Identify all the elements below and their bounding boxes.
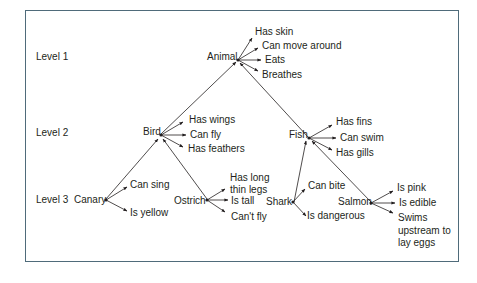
property-eats: Eats xyxy=(265,54,285,66)
node-fish: Fish xyxy=(289,129,308,141)
property-is-yellow: Is yellow xyxy=(130,207,168,219)
node-shark: Shark xyxy=(266,196,292,208)
level-3-label: Level 3 xyxy=(36,194,68,206)
property-has-wings: Has wings xyxy=(189,114,235,126)
property-is-pink: Is pink xyxy=(397,182,426,194)
property-is-tall: Is tall xyxy=(231,195,254,207)
property-swims-upstream: Swims upstream to lay eggs xyxy=(398,212,456,250)
property-has-long-thin-legs: Has long thin legs xyxy=(230,172,276,196)
property-is-dangerous: Is dangerous xyxy=(307,210,365,222)
property-has-gills: Has gills xyxy=(336,147,374,159)
level-1-label: Level 1 xyxy=(36,51,68,63)
property-cant-fly: Can't fly xyxy=(231,211,267,223)
node-bird: Bird xyxy=(143,126,161,138)
property-can-sing: Can sing xyxy=(130,179,169,191)
node-ostrich: Ostrich xyxy=(174,195,206,207)
property-can-swim: Can swim xyxy=(340,132,384,144)
property-has-skin: Has skin xyxy=(255,26,293,38)
property-has-feathers: Has feathers xyxy=(188,143,245,155)
node-animal: Animal xyxy=(207,51,238,63)
property-can-move-around: Can move around xyxy=(262,40,342,52)
level-2-label: Level 2 xyxy=(36,127,68,139)
property-breathes: Breathes xyxy=(262,69,302,81)
property-can-bite: Can bite xyxy=(308,180,345,192)
node-canary: Canary xyxy=(74,194,106,206)
node-salmon: Salmon xyxy=(338,196,372,208)
property-is-edible: Is edible xyxy=(399,197,436,209)
property-has-fins: Has fins xyxy=(336,116,372,128)
property-can-fly: Can fly xyxy=(190,129,221,141)
